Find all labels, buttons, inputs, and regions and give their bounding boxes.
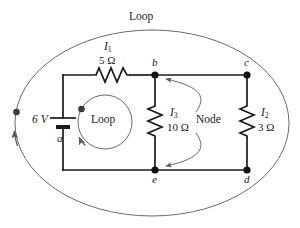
inner-loop-direction-arrow: [79, 138, 85, 146]
circuit-diagram-figure: Loop Loop Node I1 5 Ω I3 10 Ω I2 3 Ω 6 V…: [0, 0, 300, 228]
node-label-c: c: [244, 57, 249, 68]
inner-loop-start-dot: [78, 106, 85, 113]
current-label-i1: I1: [104, 41, 112, 54]
junction-dot-b: [151, 71, 158, 78]
resistor-r1-label: 5 Ω: [99, 55, 115, 66]
current-label-i2: I2: [261, 107, 269, 120]
battery-voltage-label: 6 V: [32, 114, 48, 126]
junction-dot-c: [243, 71, 250, 78]
node-label-d: d: [244, 174, 250, 185]
current-i1-subscript: 1: [108, 45, 112, 54]
outer-loop-start-dot: [13, 109, 20, 116]
resistor-r3-label: 10 Ω: [167, 122, 189, 133]
current-i3-subscript: 3: [174, 111, 178, 120]
battery-symbol: [50, 118, 76, 127]
resistor-r2-label: 3 Ω: [258, 122, 274, 133]
node-label: Node: [196, 114, 221, 126]
node-label-e: e: [152, 174, 157, 185]
resistor-r2-symbol: [240, 106, 254, 138]
resistor-r1-symbol: [96, 68, 130, 82]
outer-loop-label: Loop: [129, 11, 153, 23]
node-label-b: b: [152, 57, 158, 68]
inner-loop-label: Loop: [91, 114, 115, 126]
node-arrow-to-e: [166, 133, 201, 166]
current-i2-subscript: 2: [265, 111, 269, 120]
resistor-r3-symbol: [148, 106, 162, 138]
current-label-i3: I3: [170, 107, 178, 120]
node-label-a: a: [57, 133, 63, 144]
